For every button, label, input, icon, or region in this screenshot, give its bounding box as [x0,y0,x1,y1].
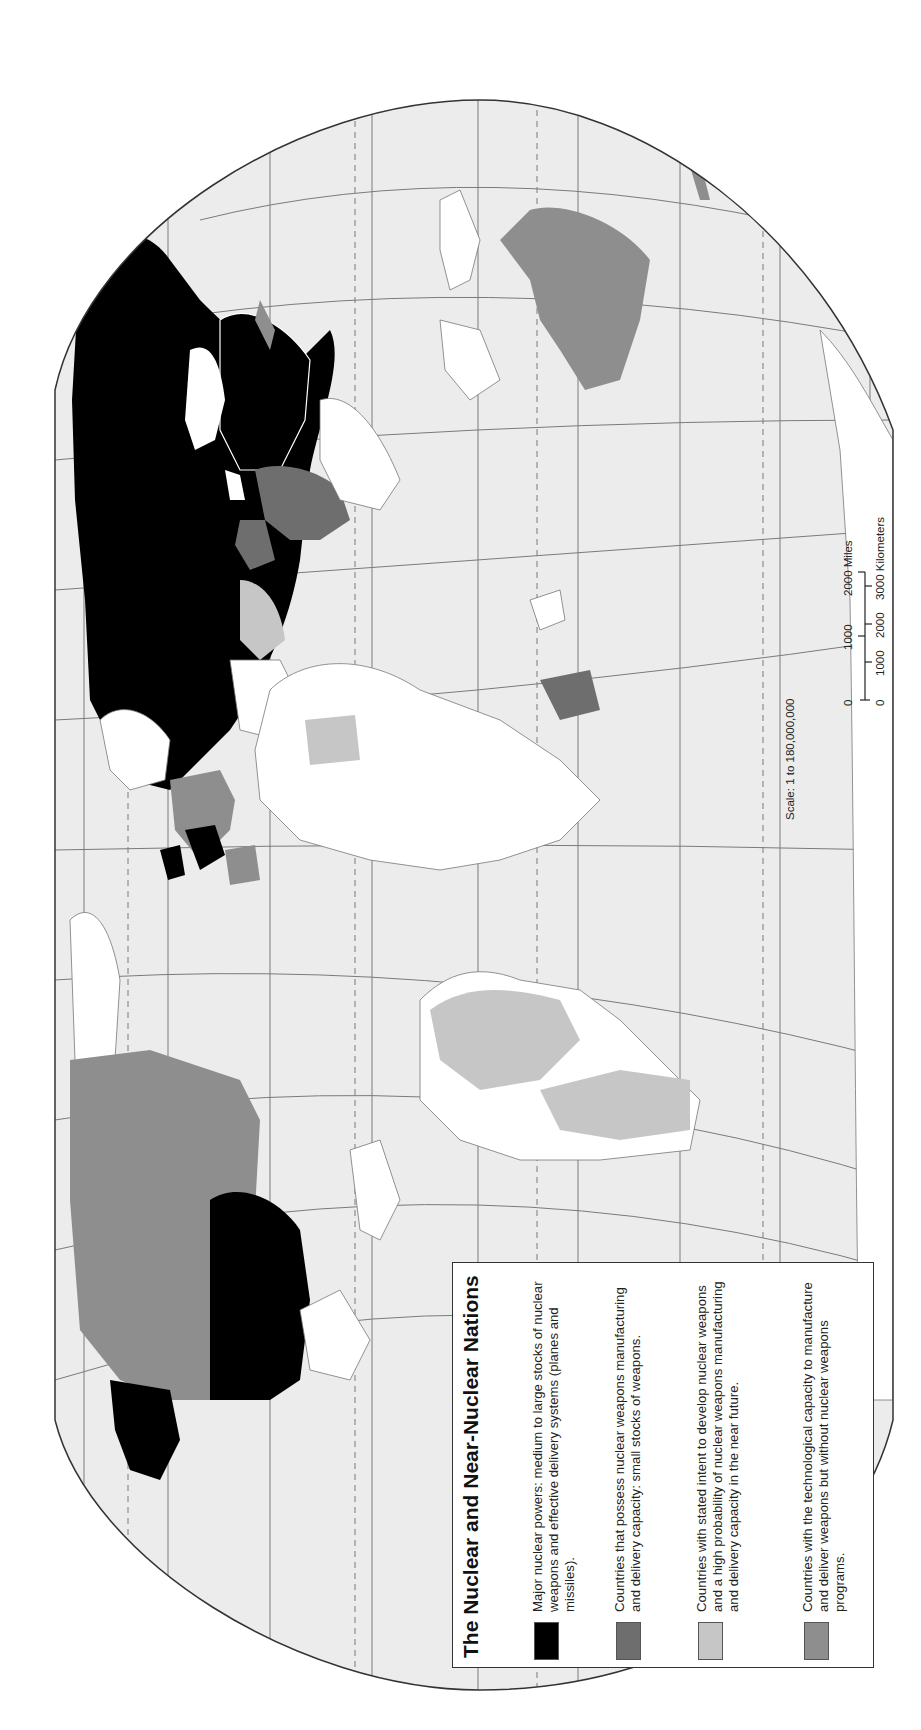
scale-ratio: Scale: 1 to 180,000,000 [784,699,796,821]
scale-km-0: 0 [874,700,886,706]
scale-miles-1000: 1000 [842,624,854,650]
legend-swatch-light-gray [698,1622,723,1660]
scale-miles-0: 0 [842,700,854,706]
legend-label: Major nuclear powers: medium to large st… [530,1272,578,1612]
legend-item-stated-intent: Countries with stated intent to develop … [698,1268,778,1660]
legend-item-possess-small: Countries that possess nuclear weapons m… [616,1268,696,1660]
legend-label: Countries with the technological capacit… [800,1272,848,1612]
legend-swatch-medium-gray [804,1622,829,1660]
legend-item-technological-capacity: Countries with the technological capacit… [804,1268,884,1660]
legend-title: The Nuclear and Near-Nuclear Nations [458,1268,483,1658]
legend-box: The Nuclear and Near-Nuclear Nations Maj… [452,1262,874,1668]
scale-miles-2000: 2000 Miles [842,540,854,596]
scale-km-3000: 3000 Kilometers [874,517,886,600]
region-iberia [225,845,260,885]
legend-label: Countries that possess nuclear weapons m… [612,1272,644,1612]
legend-swatch-dark-gray [616,1622,641,1660]
legend-label: Countries with stated intent to develop … [694,1272,742,1612]
legend-item-major-nuclear: Major nuclear powers: medium to large st… [534,1268,614,1660]
scale-km-2000: 2000 [874,612,886,638]
scale-km-1000: 1000 [874,650,886,676]
region-libya [305,715,360,765]
legend-swatch-black [534,1622,559,1660]
legend-content: The Nuclear and Near-Nuclear Nations Maj… [452,1262,874,1668]
